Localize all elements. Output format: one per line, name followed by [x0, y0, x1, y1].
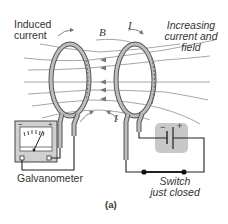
galvanometer-label: Galvanometer	[17, 173, 83, 184]
induced-current-label: Induced current	[14, 19, 51, 41]
galvanometer-minus-sign: −	[18, 119, 23, 130]
switch-label-line2: just closed	[146, 187, 204, 198]
current-label-bottom: I	[114, 113, 118, 124]
panel-label: (a)	[105, 199, 117, 210]
field-arrows	[100, 58, 106, 102]
induction-diagram: Induced current B I I Increasing current…	[0, 0, 228, 224]
induced-current-label-line2: current	[14, 30, 51, 41]
increasing-label-line3: field	[160, 42, 222, 53]
b-field-label: B	[99, 27, 106, 38]
battery-minus-sign: −	[160, 122, 165, 133]
right-coil	[116, 44, 155, 160]
increasing-current-label: Increasing current and field	[160, 20, 222, 53]
switch-label: Switch just closed	[146, 176, 204, 198]
induced-current-arrow	[58, 30, 72, 36]
current-label-top: I	[128, 20, 132, 31]
battery-plus-sign: +	[177, 121, 182, 132]
galvanometer-plus-sign: +	[48, 119, 53, 130]
current-arrow-lower-left	[80, 112, 92, 122]
